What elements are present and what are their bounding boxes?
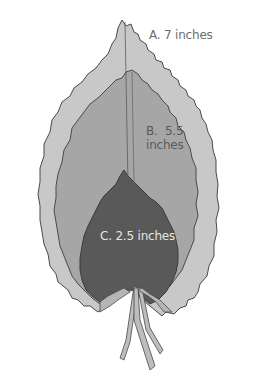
label-leaf-b: B. 5.5 inches (146, 124, 186, 152)
label-leaf-b-line1: B. 5.5 (146, 124, 186, 138)
leaf-size-diagram (0, 0, 258, 390)
label-leaf-b-line2: inches (146, 138, 186, 152)
label-leaf-c: C. 2.5 inches (100, 229, 175, 243)
label-leaf-a: A. 7 inches (149, 28, 213, 42)
